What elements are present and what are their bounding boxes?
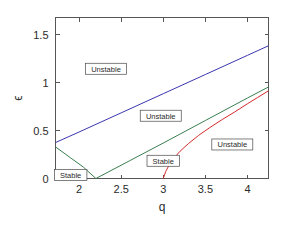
region-label-stable-corner: Stable bbox=[54, 169, 87, 180]
annotation-label: Unstable bbox=[91, 65, 121, 74]
plot-frame bbox=[56, 18, 269, 179]
annotation-label: Unstable bbox=[146, 112, 176, 121]
region-label-unstable-right: Unstable bbox=[212, 139, 253, 150]
curve-stable-wedge-right bbox=[96, 87, 269, 179]
region-label-unstable-top: Unstable bbox=[86, 63, 127, 74]
stability-diagram-plot: 22.533.5400.511.5 UnstableUnstableUnstab… bbox=[0, 0, 286, 226]
x-tick-label: 2 bbox=[76, 183, 82, 195]
x-tick-label: 2.5 bbox=[114, 183, 129, 195]
y-tick-label: 0.5 bbox=[33, 125, 48, 137]
y-tick-label: 1.5 bbox=[33, 29, 48, 41]
region-label-unstable-middle: Unstable bbox=[140, 110, 181, 121]
x-tick-label: 3.5 bbox=[198, 183, 213, 195]
annotations-layer: UnstableUnstableUnstableStableStable bbox=[54, 63, 252, 180]
region-label-stable-wedge: Stable bbox=[147, 155, 180, 166]
x-tick-label: 4 bbox=[244, 183, 250, 195]
y-axis-title: ϵ bbox=[11, 95, 25, 100]
annotation-label: Stable bbox=[60, 171, 81, 180]
y-tick-label: 1 bbox=[42, 77, 48, 89]
x-axis-title: q bbox=[159, 200, 166, 214]
y-tick-label: 0 bbox=[42, 173, 48, 185]
figure-canvas: 22.533.5400.511.5 UnstableUnstableUnstab… bbox=[0, 0, 286, 226]
x-tick-label: 3 bbox=[160, 183, 166, 195]
curve-upper-boundary bbox=[56, 46, 269, 143]
annotation-label: Stable bbox=[153, 157, 174, 166]
annotation-label: Unstable bbox=[217, 140, 247, 149]
